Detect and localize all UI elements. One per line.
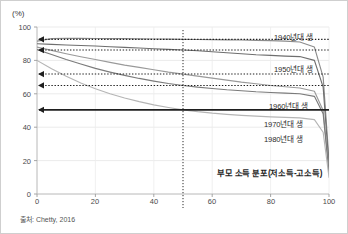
- y-tick-label-100: 100: [9, 23, 31, 32]
- x-tick-label-0: 0: [25, 197, 49, 206]
- series-label-1950: 1950년대 생: [274, 63, 313, 74]
- x-tick-label-100: 100: [317, 197, 341, 206]
- y-tick-label-20: 20: [9, 157, 31, 166]
- series-label-1970: 1970년대 생: [264, 118, 303, 129]
- x-axis-title: 부모 소득 분포(저소득-고소득): [217, 166, 322, 178]
- y-tick-label-80: 80: [9, 56, 31, 65]
- series-label-1980: 1980년대 생: [264, 133, 303, 144]
- y-tick-label-60: 60: [9, 90, 31, 99]
- y-axis-unit-label: (%): [12, 9, 24, 18]
- x-tick-label-60: 60: [200, 197, 224, 206]
- source-note: 출처: Chetty, 2016: [20, 214, 75, 224]
- series-label-1960: 1960년대 생: [269, 100, 308, 111]
- chart-frame: (%) 100 80 60 40 20 0 0 20 40 60 80 100 …: [0, 0, 348, 234]
- x-tick-label-40: 40: [142, 197, 166, 206]
- x-tick-label-20: 20: [83, 197, 107, 206]
- y-tick-label-40: 40: [9, 123, 31, 132]
- x-tick-label-80: 80: [259, 197, 283, 206]
- series-label-1940: 1940년대 생: [274, 31, 313, 42]
